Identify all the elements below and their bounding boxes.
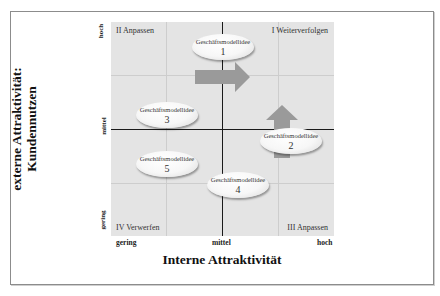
quadrant-label-bottom-left: IV Verwerfen — [116, 223, 159, 232]
idea-label: Geschäftsmodellidee — [192, 38, 254, 46]
y-tick-mittel: mittel — [100, 117, 108, 135]
idea-bubble-4[interactable]: Geschäftsmodellidee 4 — [207, 172, 269, 198]
idea-label: Geschäftsmodellidee — [136, 106, 198, 114]
y-tick-hoch: hoch — [97, 24, 105, 38]
quadrant-label-top-left: II Anpassen — [116, 26, 154, 35]
arrow-right-icon — [195, 62, 251, 94]
idea-label: Geschäftsmodellidee — [207, 176, 269, 184]
idea-bubble-2[interactable]: Geschäftsmodellidee 2 — [260, 128, 322, 154]
idea-bubble-1[interactable]: Geschäftsmodellidee 1 — [192, 34, 254, 60]
y-axis-title-line2: Kundennutzen — [24, 67, 39, 190]
idea-number: 3 — [136, 114, 198, 125]
idea-label: Geschäftsmodellidee — [136, 155, 198, 163]
y-tick-gering: gering — [99, 210, 107, 229]
idea-bubble-5[interactable]: Geschäftsmodellidee 5 — [136, 151, 198, 177]
y-axis-title-line1: externe Attraktivität: — [9, 67, 24, 190]
idea-number: 1 — [192, 46, 254, 57]
matrix-area: II Anpassen I Weiterverfolgen IV Verwerf… — [111, 22, 334, 236]
idea-label: Geschäftsmodellidee — [260, 132, 322, 140]
idea-number: 4 — [207, 184, 269, 195]
y-axis-title: externe Attraktivität: Kundennutzen — [9, 67, 39, 190]
idea-number: 2 — [260, 140, 322, 151]
idea-number: 5 — [136, 163, 198, 174]
quadrant-label-bottom-right: III Anpassen — [287, 223, 328, 232]
quadrant-label-top-right: I Weiterverfolgen — [272, 26, 328, 35]
idea-bubble-3[interactable]: Geschäftsmodellidee 3 — [136, 102, 198, 128]
x-tick-gering: gering — [116, 238, 136, 247]
x-axis-title: Interne Attraktivität — [163, 252, 282, 268]
x-tick-mittel: mittel — [212, 238, 231, 247]
x-tick-hoch: hoch — [317, 238, 332, 247]
